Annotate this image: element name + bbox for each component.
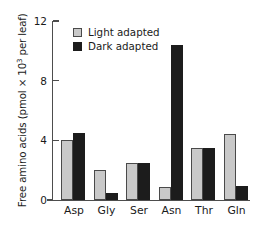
bar-group: Asn xyxy=(159,21,185,200)
bar-gly-dark[interactable] xyxy=(106,193,118,200)
legend-item-light[interactable]: Light adapted xyxy=(73,25,160,39)
x-tick-label: Thr xyxy=(187,204,221,217)
bar-ser-light[interactable] xyxy=(126,163,138,200)
legend-item-dark[interactable]: Dark adapted xyxy=(73,39,160,53)
x-tick-label: Asp xyxy=(57,204,91,217)
legend-label: Light adapted xyxy=(88,26,160,38)
bar-asn-light[interactable] xyxy=(159,187,171,200)
x-tick-label: Gly xyxy=(90,204,124,217)
bar-chart: Free amino acids (pmol × 103 per leaf) 0… xyxy=(0,0,264,232)
y-tick-label: 0 xyxy=(40,194,47,206)
y-axis-title-exponent: 3 xyxy=(16,59,24,63)
x-tick-label: Asn xyxy=(155,204,189,217)
bar-asp-light[interactable] xyxy=(61,140,73,200)
y-axis-title-suffix: per leaf) xyxy=(17,13,28,58)
bar-thr-light[interactable] xyxy=(191,148,203,200)
bar-gly-light[interactable] xyxy=(94,170,106,200)
x-tick-label: Ser xyxy=(122,204,156,217)
x-axis-line xyxy=(52,200,250,201)
dark-swatch-icon xyxy=(73,42,82,51)
x-tick-label: Gln xyxy=(220,204,254,217)
y-tick-label: 12 xyxy=(34,15,47,27)
y-tick-label: 4 xyxy=(40,134,47,146)
bar-asn-dark[interactable] xyxy=(171,45,183,200)
light-swatch-icon xyxy=(73,28,82,37)
bar-gln-light[interactable] xyxy=(224,134,236,200)
bar-thr-dark[interactable] xyxy=(203,148,215,200)
bar-ser-dark[interactable] xyxy=(138,163,150,200)
chart-legend: Light adaptedDark adapted xyxy=(73,25,160,53)
bar-gln-dark[interactable] xyxy=(236,186,248,200)
y-axis-title-prefix: Free amino acids (pmol × 10 xyxy=(17,63,28,207)
legend-label: Dark adapted xyxy=(88,40,158,52)
y-tick-label: 8 xyxy=(40,75,47,87)
bar-group: Gln xyxy=(224,21,250,200)
y-axis-title: Free amino acids (pmol × 103 per leaf) xyxy=(16,12,28,208)
bar-group: Thr xyxy=(191,21,217,200)
bar-asp-dark[interactable] xyxy=(73,133,85,200)
